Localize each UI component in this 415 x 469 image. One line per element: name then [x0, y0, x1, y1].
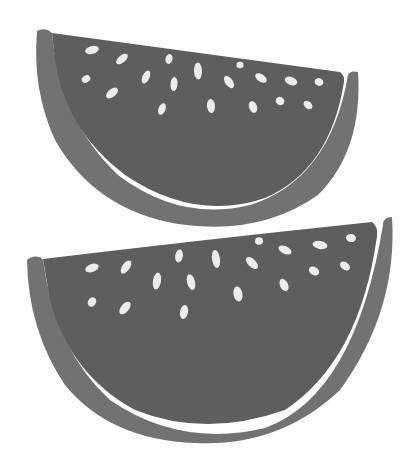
watermelon-illustration: [0, 0, 415, 469]
seed: [237, 62, 244, 68]
seed: [255, 237, 263, 245]
